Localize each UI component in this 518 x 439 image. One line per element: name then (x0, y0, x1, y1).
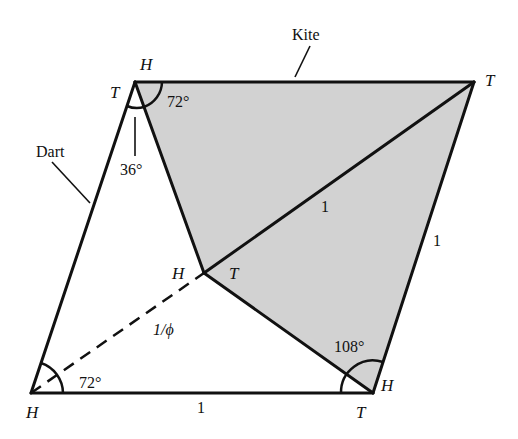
kite-label: Kite (292, 26, 320, 43)
vertex-label-bottom-right-h: H (380, 376, 395, 395)
angle-label-bottom-right: 108° (334, 338, 364, 355)
vertex-label-top-left-t: T (110, 83, 121, 102)
angle-arc-top-dart (127, 106, 144, 108)
dart-callout-line (52, 162, 90, 203)
vertex-label-top-right-t: T (485, 71, 496, 90)
vertex-label-inner-h: H (171, 264, 186, 283)
kite-callout-line (295, 46, 310, 77)
edge-left (31, 82, 135, 393)
length-label-dashed: 1/ϕ (153, 321, 174, 339)
vertex-label-top-left-h: H (139, 55, 154, 74)
dart-label: Dart (36, 143, 65, 160)
vertex-label-inner-t: T (229, 264, 240, 283)
vertex-label-bottom-left-h: H (25, 403, 40, 422)
kite-dart-diagram: Kite Dart H T T H T H H T 72° 36° 72° 10… (0, 0, 518, 439)
length-label-bottom-side: 1 (197, 399, 205, 416)
diagram-canvas: Kite Dart H T T H T H H T 72° 36° 72° 10… (0, 0, 518, 439)
vertex-label-bottom-right-t: T (356, 403, 367, 422)
angle-label-top-dart: 36° (120, 161, 142, 178)
angle-label-bottom-left: 72° (79, 374, 101, 391)
length-label-right-side: 1 (433, 232, 441, 249)
length-label-kite-diagonal: 1 (321, 198, 329, 215)
angle-label-top-kite: 72° (167, 93, 189, 110)
